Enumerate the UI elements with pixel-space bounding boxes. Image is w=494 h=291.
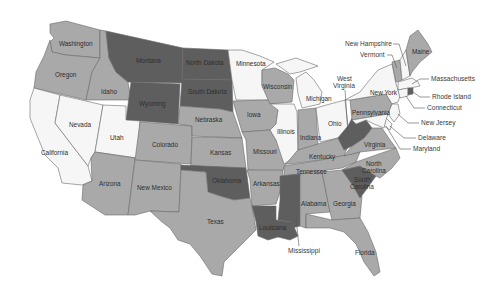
label-utah: Utah (110, 134, 124, 141)
label-massachusetts: Massachusetts (431, 75, 476, 82)
label-maryland: Maryland (413, 145, 440, 153)
label-virginia: Virginia (364, 141, 386, 149)
label-arkansas: Arkansas (253, 180, 280, 187)
leader-delaware (390, 126, 416, 138)
label-south-dakota: South Dakota (188, 88, 227, 95)
label-illinois: Illinois (277, 128, 295, 135)
state-indiana[interactable] (298, 108, 318, 150)
label-new-york: New York (370, 89, 398, 96)
label-west-virginia-1: West (337, 75, 352, 82)
label-new-mexico: New Mexico (137, 184, 172, 191)
label-west-virginia-2: Virginia (333, 82, 355, 90)
label-connecticut: Connecticut (427, 104, 462, 111)
label-colorado: Colorado (152, 141, 178, 148)
label-delaware: Delaware (418, 134, 446, 141)
label-louisiana: Louisiana (259, 224, 287, 231)
label-north-carolina-1: North (366, 160, 382, 167)
label-north-dakota: North Dakota (186, 59, 224, 66)
label-kansas: Kansas (210, 149, 231, 156)
label-florida: Florida (355, 249, 375, 256)
label-ohio: Ohio (328, 120, 342, 127)
state-mississippi[interactable] (278, 174, 300, 228)
leader-connecticut (406, 96, 425, 108)
label-south-carolina-2: Carolina (350, 183, 374, 190)
label-vermont: Vermont (360, 51, 385, 58)
state-arkansas[interactable] (247, 170, 284, 206)
label-north-carolina-2: Carolina (362, 167, 386, 174)
leader-new-jersey (398, 114, 419, 123)
label-montana: Montana (136, 57, 161, 64)
label-california: California (41, 149, 68, 156)
label-wyoming: Wyoming (139, 100, 166, 108)
label-iowa: Iowa (247, 111, 261, 118)
label-rhode-island: Rhode Island (432, 93, 471, 100)
label-missouri: Missouri (253, 148, 277, 155)
label-arizona: Arizona (99, 180, 121, 187)
label-oklahoma: Oklahoma (212, 177, 242, 184)
label-texas: Texas (207, 218, 224, 225)
label-kentucky: Kentucky (309, 153, 336, 161)
state-florida[interactable] (306, 214, 380, 276)
label-pennsylvania: Pennsylvania (352, 109, 390, 117)
us-choropleth-map: Washington Oregon California Nevada Idah… (0, 0, 494, 291)
label-nevada: Nevada (69, 121, 91, 128)
label-wisconsin: Wisconsin (263, 83, 293, 90)
label-indiana: Indiana (300, 134, 321, 141)
leader-rhode-island (413, 92, 430, 97)
label-nebraska: Nebraska (195, 116, 223, 123)
label-minnesota: Minnesota (236, 60, 266, 67)
label-south-carolina-1: South (354, 176, 371, 183)
label-maine: Maine (412, 48, 430, 55)
label-alabama: Alabama (301, 200, 327, 207)
label-tennessee: Tennessee (296, 168, 327, 175)
label-oregon: Oregon (55, 71, 77, 79)
label-mississippi: Mississippi (288, 247, 320, 255)
label-georgia: Georgia (333, 200, 356, 208)
label-washington: Washington (59, 40, 93, 48)
state-rhode-island[interactable] (408, 88, 413, 95)
label-new-jersey: New Jersey (421, 119, 456, 127)
label-michigan: Michigan (306, 95, 332, 103)
label-new-hampshire: New Hampshire (345, 40, 392, 48)
label-idaho: Idaho (101, 88, 117, 95)
